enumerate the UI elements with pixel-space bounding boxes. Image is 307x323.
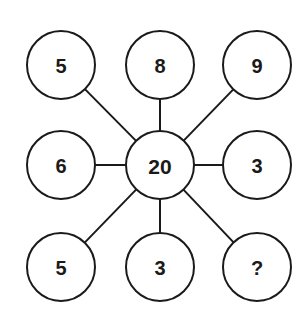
node-value: 3 xyxy=(251,155,262,177)
node-value: 5 xyxy=(55,257,66,279)
node-value: 3 xyxy=(154,257,165,279)
outer-node: 5 xyxy=(27,233,95,301)
unknown-node: ? xyxy=(223,233,291,301)
outer-node: 8 xyxy=(126,31,194,99)
outer-node: 5 xyxy=(27,31,95,99)
number-puzzle-diagram: 5896353?20 xyxy=(0,0,307,323)
connector-line xyxy=(184,89,234,140)
outer-node: 6 xyxy=(27,131,95,199)
center-node: 20 xyxy=(126,131,194,199)
node-value: 20 xyxy=(148,155,171,178)
connector-line xyxy=(183,190,233,243)
circle-nodes: 5896353?20 xyxy=(27,31,291,301)
outer-node: 3 xyxy=(223,131,291,199)
outer-node: 3 xyxy=(126,233,194,301)
node-value: 6 xyxy=(55,155,66,177)
node-value: ? xyxy=(251,257,263,279)
connector-line xyxy=(85,89,136,141)
node-value: 8 xyxy=(154,55,165,77)
node-value: 9 xyxy=(251,55,262,77)
node-value: 5 xyxy=(55,55,66,77)
outer-node: 9 xyxy=(223,31,291,99)
connector-line xyxy=(85,189,137,242)
